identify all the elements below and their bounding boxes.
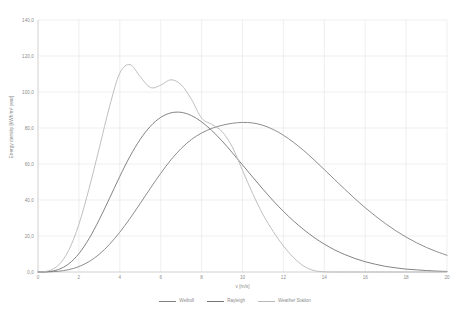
y-axis-tick-label: 100,0 xyxy=(2,90,34,95)
legend-item[interactable]: Weibull xyxy=(159,298,194,304)
legend-line-icon xyxy=(207,301,224,302)
legend-item[interactable]: Rayleigh xyxy=(207,298,245,304)
y-axis-tick-label: 0,0 xyxy=(2,270,34,275)
x-axis-tick-label: 4 xyxy=(119,275,122,280)
y-axis-title: Energy density [kWh/m² year] xyxy=(9,67,15,187)
y-axis-tick-label: 40,0 xyxy=(2,198,34,203)
x-axis-title: v [m/s] xyxy=(38,284,447,290)
legend-item-label: Weather Station xyxy=(278,298,311,304)
x-axis-tick-label: 10 xyxy=(240,275,245,280)
x-axis-tick-labels: 02468101214161820 xyxy=(38,275,447,283)
x-axis-tick-label: 20 xyxy=(444,275,449,280)
legend-item-label: Weibull xyxy=(179,298,194,304)
plot-svg xyxy=(38,20,447,272)
y-axis-tick-label: 60,0 xyxy=(2,162,34,167)
x-axis-tick-label: 18 xyxy=(404,275,409,280)
y-axis-tick-label: 120,0 xyxy=(2,54,34,59)
y-axis-tick-label: 140,0 xyxy=(2,18,34,23)
x-axis-tick-label: 8 xyxy=(200,275,203,280)
x-axis-tick-label: 16 xyxy=(363,275,368,280)
chart-legend: WeibullRayleighWeather Station xyxy=(0,298,470,304)
x-axis-tick-label: 12 xyxy=(281,275,286,280)
x-axis-tick-label: 0 xyxy=(37,275,40,280)
x-axis-tick-label: 2 xyxy=(78,275,81,280)
y-axis-tick-label: 20,0 xyxy=(2,234,34,239)
chart-container: 0,020,040,060,080,0100,0120,0140,0 02468… xyxy=(0,0,470,320)
legend-item-label: Rayleigh xyxy=(227,298,245,304)
legend-item[interactable]: Weather Station xyxy=(258,298,311,304)
y-axis-tick-labels: 0,020,040,060,080,0100,0120,0140,0 xyxy=(0,20,34,272)
legend-line-icon xyxy=(159,301,176,302)
legend-line-icon xyxy=(258,301,275,302)
y-axis-tick-label: 80,0 xyxy=(2,126,34,131)
x-axis-tick-label: 14 xyxy=(322,275,327,280)
x-axis-tick-label: 6 xyxy=(159,275,162,280)
plot-area xyxy=(38,20,447,272)
